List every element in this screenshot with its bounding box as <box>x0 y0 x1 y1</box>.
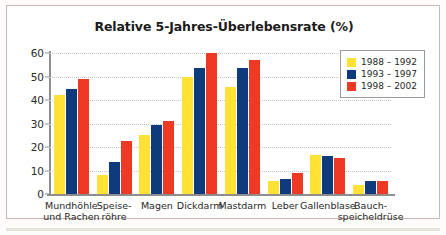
legend-label-1988-1992: 1988 – 1992 <box>361 57 417 67</box>
bar <box>225 87 236 194</box>
chart-title: Relative 5-Jahres-Überlebensrate (%) <box>7 19 441 34</box>
y-axis-tick-mark <box>45 170 49 171</box>
bar-group: Mundhöhleund Rachen <box>54 53 89 194</box>
x-axis-tick-label: Bauch-speicheldrüse <box>338 200 404 222</box>
legend-swatch-1988-1992 <box>347 58 356 67</box>
bar-group: Mastdarm <box>225 53 260 194</box>
legend-label-1993-1997: 1993 – 1997 <box>361 69 417 79</box>
legend-label-1998-2002: 1998 – 2002 <box>361 81 417 91</box>
x-axis-tick-label-line: Bauch- <box>338 200 404 211</box>
bar <box>322 156 333 194</box>
x-axis-tick-label-line: Mastdarm <box>219 200 267 211</box>
bar <box>54 95 65 194</box>
bar-group: Magen <box>139 53 174 194</box>
y-axis-tick-label: 30 <box>31 118 44 130</box>
bar <box>249 60 260 194</box>
bar <box>334 158 345 194</box>
bar-group: Speise-röhre <box>97 53 132 194</box>
bar <box>377 181 388 194</box>
legend-swatch-1993-1997 <box>347 70 356 79</box>
bar-group: Dickdarm <box>182 53 217 194</box>
caption-divider <box>6 228 440 231</box>
y-axis-tick-label: 20 <box>31 141 44 153</box>
x-axis-tick-label-line: Magen <box>141 200 173 211</box>
chart-legend: 1988 – 1992 1993 – 1997 1998 – 2002 <box>340 50 425 98</box>
bar <box>66 89 77 194</box>
bar-group: Leber <box>268 53 303 194</box>
x-axis-tick-label: Speise-röhre <box>97 200 132 222</box>
y-axis-tick-mark <box>45 194 49 195</box>
x-axis-tick-label: Leber <box>272 200 299 211</box>
bar <box>353 185 364 194</box>
bar <box>109 162 120 194</box>
legend-item: 1988 – 1992 <box>347 56 417 68</box>
figure-container: Relative 5-Jahres-Überlebensrate (%) 010… <box>0 0 446 235</box>
bar <box>78 79 89 194</box>
bar <box>365 181 376 194</box>
legend-item: 1993 – 1997 <box>347 68 417 80</box>
x-axis-tick-label: Magen <box>141 200 173 211</box>
x-axis-line <box>47 194 395 196</box>
x-axis-tick-label-line: röhre <box>97 211 132 222</box>
y-axis-tick-mark <box>45 76 49 77</box>
y-axis-tick-label: 10 <box>31 165 44 177</box>
y-axis-tick-mark <box>45 123 49 124</box>
y-axis-tick-label: 0 <box>37 188 44 200</box>
y-axis-tick-label: 40 <box>31 94 44 106</box>
x-axis-tick-label-line: Leber <box>272 200 299 211</box>
bar <box>292 173 303 194</box>
bar <box>268 181 279 194</box>
x-axis-tick-label-line: und Rachen <box>43 211 99 222</box>
x-axis-tick-label-line: Mundhöhle <box>43 200 99 211</box>
legend-swatch-1998-2002 <box>347 82 356 91</box>
bar <box>237 68 248 194</box>
bar <box>97 175 108 194</box>
x-axis-tick-label-line: Dickdarm <box>177 200 223 211</box>
bar <box>206 53 217 194</box>
bar <box>280 179 291 194</box>
x-axis-tick-label: Dickdarm <box>177 200 223 211</box>
y-axis-tick-mark <box>45 53 49 54</box>
x-axis-tick-label-line: Speise- <box>97 200 132 211</box>
chart-frame: Relative 5-Jahres-Überlebensrate (%) 010… <box>6 5 440 219</box>
bar <box>121 141 132 194</box>
bar <box>151 125 162 194</box>
y-axis-tick-mark <box>45 147 49 148</box>
legend-item: 1998 – 2002 <box>347 80 417 92</box>
x-axis-tick-label: Mundhöhleund Rachen <box>43 200 99 222</box>
y-axis-tick-label: 60 <box>31 47 44 59</box>
bar <box>310 155 321 194</box>
bar <box>139 135 150 194</box>
y-axis-tick-mark <box>45 100 49 101</box>
x-axis-tick-label-line: speicheldrüse <box>338 211 404 222</box>
bar <box>194 68 205 194</box>
y-axis-tick-label: 50 <box>31 71 44 83</box>
x-axis-tick-label: Mastdarm <box>219 200 267 211</box>
bar <box>163 121 174 194</box>
bar <box>182 77 193 195</box>
